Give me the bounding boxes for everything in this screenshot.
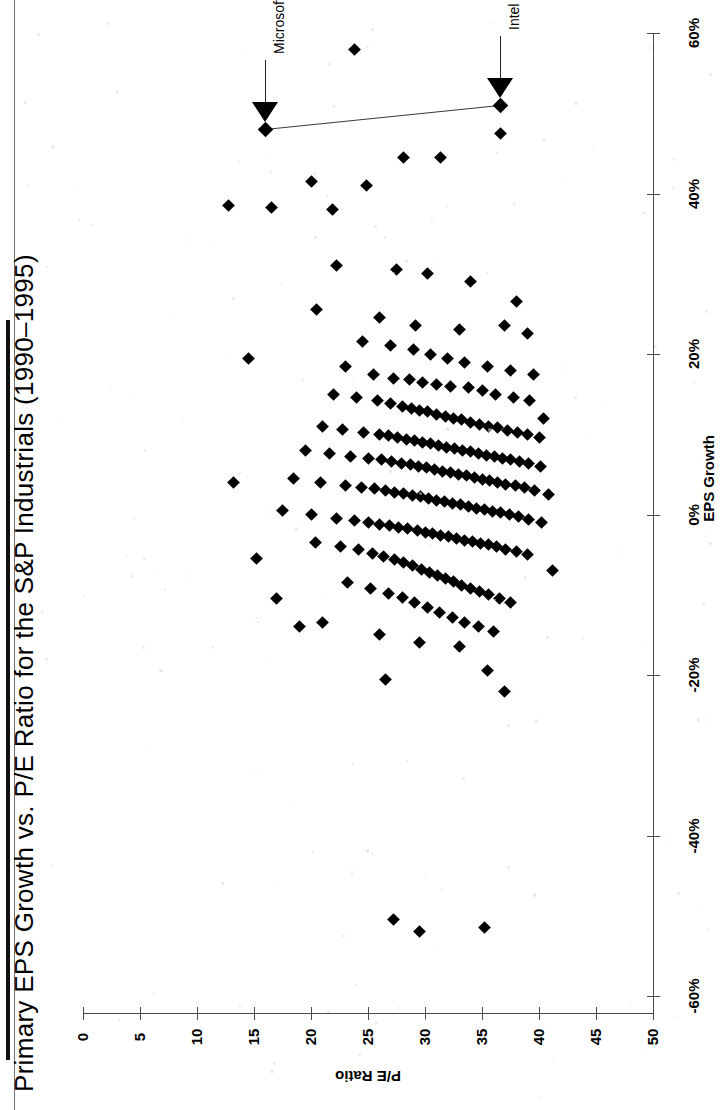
chart-page: Primary EPS Growth vs. P/E Ratio for the… — [0, 0, 723, 1110]
scatter-point — [323, 447, 336, 460]
scatter-point — [387, 372, 400, 385]
scatter-markers — [0, 0, 723, 1110]
scan-speckle — [295, 527, 298, 530]
scatter-point — [537, 412, 550, 425]
scatter-point — [478, 921, 491, 934]
scatter-point — [265, 201, 278, 214]
scan-speckle — [705, 535, 707, 537]
scan-speckle — [41, 611, 43, 613]
scan-speckle — [321, 598, 322, 599]
scatter-point — [453, 324, 466, 337]
scatter-point — [334, 540, 347, 553]
scan-speckle — [74, 797, 75, 798]
scan-speckle — [164, 589, 165, 590]
callout-stem-microsoft — [265, 60, 266, 102]
scatter-point — [408, 596, 421, 609]
scatter-point — [293, 620, 306, 633]
scan-speckle — [630, 1002, 632, 1004]
scan-speckle — [46, 266, 47, 267]
scatter-point — [330, 512, 343, 525]
scatter-point — [521, 428, 534, 441]
scatter-point — [476, 385, 489, 398]
scan-speckle — [709, 542, 712, 545]
scatter-point — [366, 547, 379, 560]
scan-speckle — [374, 225, 377, 228]
scatter-point — [487, 625, 500, 638]
scatter-point — [396, 592, 409, 605]
scatter-point — [390, 263, 403, 276]
scan-speckle — [37, 33, 40, 36]
scatter-point — [309, 536, 322, 549]
scatter-point — [373, 629, 386, 642]
scan-speckle — [314, 236, 317, 239]
scatter-point — [314, 476, 327, 489]
scatter-point — [348, 43, 361, 56]
scatter-point — [498, 685, 511, 698]
scatter-point — [387, 913, 400, 926]
scan-speckle — [173, 318, 175, 320]
scan-speckle — [406, 760, 408, 762]
annotation-label-microsoft: Microsoft — [271, 0, 287, 54]
scatter-point — [472, 620, 485, 633]
scan-speckle — [535, 719, 538, 722]
scan-speckle — [238, 161, 239, 162]
scan-speckle — [183, 420, 185, 422]
scan-speckle — [494, 599, 496, 601]
scan-speckle — [446, 427, 449, 430]
callout-stem-intel — [500, 36, 501, 78]
scatter-point — [534, 460, 547, 473]
scan-speckle — [326, 195, 328, 197]
scatter-point — [535, 516, 548, 529]
scan-speckle — [368, 383, 370, 385]
scan-speckle — [705, 310, 708, 313]
scan-speckle — [582, 637, 584, 639]
scan-speckle — [533, 893, 536, 896]
scan-speckle — [131, 575, 134, 578]
scan-speckle — [693, 382, 695, 384]
annotation-label-intel: Intel — [506, 4, 522, 30]
scatter-point — [407, 344, 420, 357]
scan-speckle — [513, 202, 516, 205]
scan-speckle — [327, 1010, 330, 1013]
scatter-point — [345, 450, 358, 463]
scatter-point — [522, 457, 535, 470]
scan-speckle — [643, 644, 644, 645]
scan-speckle — [507, 724, 510, 727]
scan-speckle — [239, 1006, 241, 1008]
scatter-point — [341, 576, 354, 589]
scatter-point — [227, 476, 240, 489]
scan-speckle — [51, 145, 54, 148]
scan-speckle — [673, 158, 675, 160]
plot-area: 50454035302520151050 60%40%20%0%-20%-40%… — [0, 0, 723, 1110]
scatter-point — [362, 452, 375, 465]
scatter-point — [504, 364, 517, 377]
scatter-point — [421, 267, 434, 280]
scan-speckle — [257, 621, 258, 622]
scatter-point — [459, 356, 472, 369]
scatter-point — [521, 548, 534, 561]
scatter-point — [350, 391, 363, 404]
scatter-point — [373, 312, 386, 325]
scan-speckle — [221, 882, 223, 884]
scatter-point — [464, 275, 477, 288]
scan-speckle — [212, 243, 213, 244]
scatter-point — [310, 303, 323, 316]
scatter-point — [542, 488, 555, 501]
scatter-point — [521, 328, 534, 341]
scatter-point — [481, 360, 494, 373]
scatter-point — [299, 444, 312, 457]
scatter-point — [433, 606, 446, 619]
scatter-point — [510, 545, 523, 558]
scan-speckle — [546, 636, 549, 639]
scan-speckle — [398, 1007, 400, 1009]
scatter-point — [498, 320, 511, 333]
scan-speckle — [352, 763, 353, 764]
scan-speckle — [59, 416, 60, 417]
scatter-point — [371, 394, 384, 407]
scan-speckle — [649, 47, 651, 49]
scatter-point — [510, 295, 523, 308]
scan-speckle — [78, 218, 81, 221]
scan-speckle — [270, 1070, 273, 1073]
scatter-point — [326, 203, 339, 216]
scatter-point — [353, 543, 366, 556]
